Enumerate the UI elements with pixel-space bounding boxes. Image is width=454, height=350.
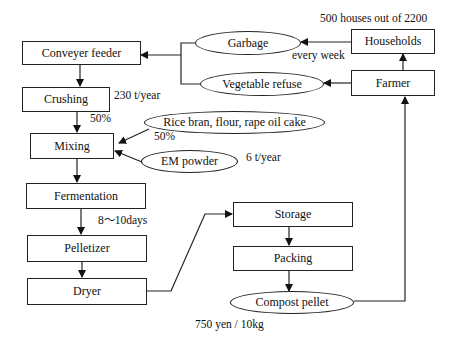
rice-bran-ratio-label: 50%	[154, 130, 175, 142]
node-label: Vegetable refuse	[222, 77, 302, 92]
node-label: Packing	[274, 251, 313, 266]
crushing-ratio-label: 50%	[90, 112, 111, 124]
arrow-em-mixing	[115, 151, 142, 162]
node-storage: Storage	[233, 202, 353, 227]
arrow-ricebran-mixing	[119, 129, 149, 143]
node-label: Conveyer feeder	[42, 46, 122, 61]
node-conveyer-feeder: Conveyer feeder	[22, 41, 141, 65]
price-label: 750 yen / 10kg	[195, 318, 264, 330]
node-label: Farmer	[376, 76, 411, 91]
bracket-sources	[181, 43, 200, 84]
node-label: Pelletizer	[64, 241, 109, 256]
arrow-dryer-storage	[147, 214, 232, 291]
node-packing: Packing	[233, 246, 353, 271]
node-label: Compost pellet	[256, 295, 329, 310]
node-label: Households	[365, 34, 422, 49]
em-amount-label: 6 t/year	[246, 151, 281, 163]
node-label: EM powder	[161, 154, 218, 169]
node-label: Fermentation	[54, 189, 118, 204]
node-crushing: Crushing	[22, 87, 110, 112]
crushing-amount-label: 230 t/year	[114, 89, 160, 101]
households-count-label: 500 houses out of 2200	[320, 12, 427, 24]
node-garbage: Garbage	[195, 31, 301, 55]
fermentation-time-label: 8〜10days	[98, 211, 147, 227]
node-fermentation: Fermentation	[26, 183, 146, 209]
node-compost-pellet: Compost pellet	[230, 291, 354, 314]
node-mixing: Mixing	[30, 133, 114, 159]
node-em-powder: EM powder	[141, 150, 238, 173]
arrow-compost-farmer	[354, 97, 405, 301]
node-label: Mixing	[54, 139, 89, 154]
node-label: Crushing	[44, 92, 88, 107]
flow-diagram: Conveyer feeder Crushing Mixing Fermenta…	[0, 0, 454, 350]
node-label: Rice bran, flour, rape oil cake	[163, 115, 305, 130]
node-pelletizer: Pelletizer	[27, 235, 147, 262]
node-farmer: Farmer	[351, 70, 435, 96]
node-label: Garbage	[228, 36, 269, 51]
node-dryer: Dryer	[27, 278, 147, 305]
node-vegetable-refuse: Vegetable refuse	[200, 72, 324, 96]
node-households: Households	[351, 29, 435, 54]
node-label: Storage	[275, 207, 312, 222]
garbage-frequency-label: every week	[292, 49, 345, 61]
node-label: Dryer	[73, 284, 101, 299]
